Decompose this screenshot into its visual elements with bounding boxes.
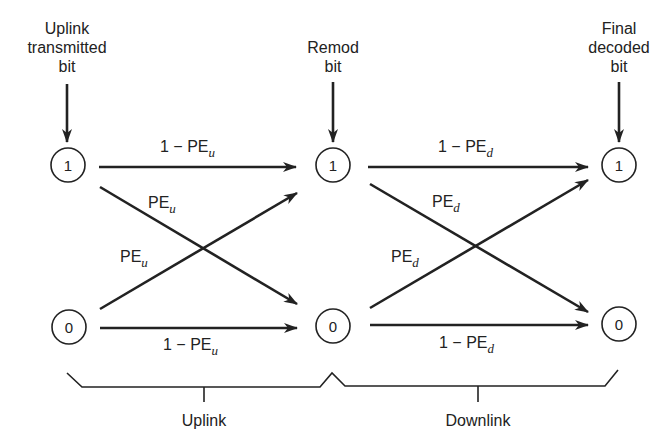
downlink-cross-lower-label: PEd [391,248,419,270]
bsc-diagram: Uplink transmitted bit Remod bit Final d… [0,0,669,445]
node-left-bottom: 0 [52,310,86,344]
downlink-bottom-label: 1 − PEd [439,334,494,356]
node-mid-top: 1 [316,148,350,182]
header-line-2: decoded [588,39,649,56]
downlink-edge-0-to-1 [370,180,588,308]
header-final-decoded-bit: Final decoded bit [588,20,649,75]
header-remod-bit: Remod bit [307,39,359,75]
uplink-top-label: 1 − PEu [160,138,215,160]
svg-text:1: 1 [615,157,623,174]
uplink-downlink-brace [67,370,618,387]
node-mid-bottom: 0 [316,309,350,343]
header-line-3: bit [59,58,76,75]
svg-text:0: 0 [65,319,73,336]
svg-text:1: 1 [64,157,72,174]
header-line-1: Final [602,20,637,37]
svg-text:0: 0 [615,316,623,333]
uplink-bottom-label: 1 − PEu [163,336,218,358]
uplink-cross-upper-label: PEu [148,194,176,216]
header-line-3: bit [611,58,628,75]
downlink-top-label: 1 − PEd [438,138,493,160]
header-line-1: Uplink [45,20,90,37]
uplink-edge-1-to-0 [100,187,297,304]
uplink-label: Uplink [182,412,227,429]
uplink-cross-lower-label: PEu [120,248,148,270]
svg-text:0: 0 [329,318,337,335]
downlink-label: Downlink [446,412,512,429]
header-uplink-transmitted-bit: Uplink transmitted bit [27,20,106,75]
header-line-2: bit [325,58,342,75]
node-left-top: 1 [51,148,85,182]
downlink-cross-upper-label: PEd [432,193,460,215]
svg-text:1: 1 [329,157,337,174]
node-right-top: 1 [602,148,636,182]
header-line-1: Remod [307,39,359,56]
header-line-2: transmitted [27,39,106,56]
node-right-bottom: 0 [602,307,636,341]
